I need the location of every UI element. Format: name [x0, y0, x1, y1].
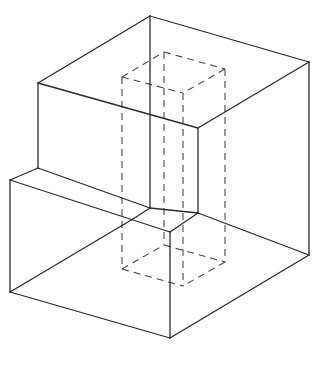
edge-prism-top-front-right — [183, 69, 225, 93]
edge-step-inner-edge — [150, 208, 198, 213]
hidden-prism-edges — [122, 52, 225, 286]
edge-prism-bot-back-left — [122, 245, 164, 269]
edge-top-front-right — [198, 62, 309, 128]
edge-prism-bot-front-left — [122, 269, 183, 286]
edge-step-front-right — [170, 213, 198, 232]
edge-bottom-back-left-visible — [10, 219, 133, 292]
edge-bottom-front-right — [170, 255, 309, 338]
edge-step-side-edge — [198, 213, 309, 255]
edge-prism-top-back-right — [164, 52, 225, 69]
edge-step-left-edge — [10, 168, 38, 180]
edge-prism-bot-back-right — [164, 245, 225, 262]
edge-step-back-edge — [38, 168, 150, 208]
edge-prism-top-back-left — [122, 52, 164, 77]
solid-edges — [10, 16, 309, 338]
edge-bottom-front-left — [10, 292, 170, 338]
edge-top-back-left — [38, 16, 150, 83]
edge-prism-bot-front-right — [183, 262, 225, 286]
edge-step-front-back-edge — [133, 208, 150, 219]
edge-top-back-right — [150, 16, 309, 62]
edge-top-front-left — [38, 83, 198, 128]
isometric-solid-diagram — [0, 0, 315, 370]
edge-prism-top-front-left — [122, 77, 183, 93]
